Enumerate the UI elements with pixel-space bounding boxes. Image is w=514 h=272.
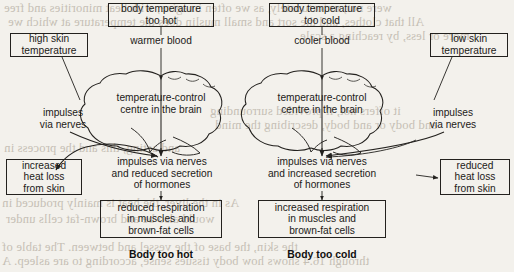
right-output-label: impulses via nerves and increased secret… [249, 156, 395, 191]
right-skin-temperature-box: low skin temperature [430, 33, 508, 57]
left-heat-loss-box: increased heat loss from skin [6, 159, 82, 195]
right-respiration-box: increased respiration in muscles and bro… [258, 200, 386, 238]
right-blood-label: cooler blood [272, 35, 372, 47]
right-skin-impulses-label: impulses via nerves [414, 107, 492, 130]
left-blood-label: warmer blood [111, 35, 211, 47]
left-trigger-box: body temperature too hot [108, 3, 214, 27]
right-heat-loss-box: reduced heat loss from skin [440, 159, 510, 195]
right-panel-caption: Body too cold [258, 249, 386, 260]
left-respiration-box: reduced respiration in muscles and brown… [100, 200, 222, 238]
left-output-label: impulses via nerves and reduced secretio… [96, 156, 228, 191]
left-panel-caption: Body too hot [100, 249, 222, 260]
left-brain-label: temperature-control centre in the brain [96, 92, 226, 115]
left-skin-impulses-label: impulses via nerves [24, 107, 102, 130]
figure-canvas: were not, unfortunately, as we often ima… [0, 0, 514, 272]
right-trigger-box: body temperature too cold [269, 3, 375, 27]
right-brain-label: temperature-control centre in the brain [257, 92, 387, 115]
left-skin-temperature-box: high skin temperature [10, 33, 88, 57]
